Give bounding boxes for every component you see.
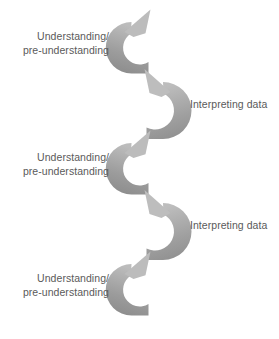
label-interpreting-2: Interpreting data — [190, 219, 279, 233]
hermeneutic-spiral-diagram: Understanding/ pre-understanding Interpr… — [0, 0, 279, 339]
arrow-understanding-1 — [106, 10, 151, 74]
arrow-interpreting-2 — [145, 190, 192, 260]
label-interpreting-1: Interpreting data — [190, 98, 279, 112]
arrow-understanding-2 — [106, 131, 151, 195]
arrow-understanding-3 — [106, 252, 151, 316]
label-understanding-2: Understanding/ pre-understanding — [0, 151, 109, 178]
label-understanding-3: Understanding/ pre-understanding — [0, 272, 109, 299]
arrow-interpreting-1 — [145, 69, 192, 139]
label-understanding-1: Understanding/ pre-understanding — [0, 30, 109, 57]
